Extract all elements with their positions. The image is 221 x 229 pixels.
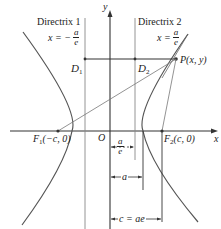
arrow-right-icon xyxy=(138,176,142,179)
directrix-2-equation: x = a e xyxy=(157,28,179,47)
hyperbola-diagram xyxy=(0,0,221,229)
p-label: P(x, y) xyxy=(180,55,207,65)
a-over-e-label: a e xyxy=(117,137,124,156)
f1-label: F1(−c, 0) xyxy=(33,134,70,146)
arrow-left-icon xyxy=(111,176,115,179)
arrow-left-icon xyxy=(111,218,115,221)
d2-label: D2 xyxy=(138,63,149,76)
f2-coords: (c, 0) xyxy=(174,133,195,144)
y-axis-label: y xyxy=(103,2,107,12)
fraction-denominator: e xyxy=(118,147,122,156)
directrix-1-label: Directrix 1 xyxy=(37,17,81,27)
d1-label: D1 xyxy=(71,63,82,76)
directrix-2-eq-lhs: x = xyxy=(157,33,171,43)
directrix-1-eq-lhs: x = − xyxy=(48,33,71,43)
f1-coords: (−c, 0) xyxy=(43,133,71,144)
fraction-denominator: e xyxy=(174,38,178,47)
y-axis-arrow-icon xyxy=(108,10,113,17)
arrow-right-icon xyxy=(157,218,161,221)
directrix-1-fraction: a e xyxy=(73,28,80,47)
d1-main: D xyxy=(71,62,79,74)
d1-point xyxy=(84,58,87,61)
fraction-denominator: e xyxy=(74,38,78,47)
origin-label: O xyxy=(98,133,105,143)
a-dimension-label: a xyxy=(121,172,128,182)
a-over-e-fraction: a e xyxy=(117,137,124,156)
c-dimension-label: c = ae xyxy=(118,214,146,224)
arrow-right-icon xyxy=(130,146,134,149)
d2-point xyxy=(134,58,137,61)
f2-label: F2(c, 0) xyxy=(164,134,195,146)
directrix-1-equation: x = − a e xyxy=(48,28,79,47)
d2-sub: 2 xyxy=(146,68,150,76)
directrix-2-fraction: a e xyxy=(173,28,180,47)
d1-sub: 1 xyxy=(79,68,83,76)
directrix-2-label: Directrix 2 xyxy=(138,17,182,27)
x-axis-label: x xyxy=(214,134,218,144)
d2-main: D xyxy=(138,62,146,74)
arrow-left-icon xyxy=(111,146,115,149)
hyperbola-left-branch xyxy=(22,32,73,225)
